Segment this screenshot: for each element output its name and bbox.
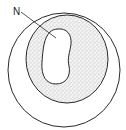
cell-diagram: N [0, 0, 126, 130]
nucleus-shape [42, 29, 71, 84]
nucleus-label: N [13, 6, 20, 17]
